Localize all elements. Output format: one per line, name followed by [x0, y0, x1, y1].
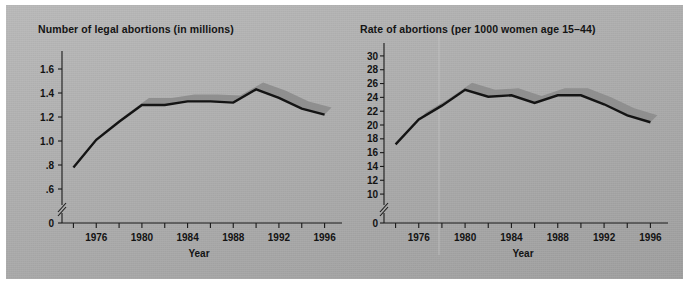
chart-canvas-left: 0.6.81.01.21.41.619761980198419881992199… [14, 5, 344, 279]
x-tick-label: 1988 [547, 232, 570, 243]
figure-panel: Number of legal abortions (in millions) … [6, 5, 683, 279]
y-tick-label: 30 [367, 51, 379, 62]
x-tick-label: 1996 [313, 232, 336, 243]
y-tick-label: 1.0 [40, 136, 54, 147]
x-tick-label: 1980 [131, 232, 154, 243]
x-tick-label: 1988 [222, 232, 245, 243]
y-tick-label: 28 [367, 64, 379, 75]
y-tick-label: 24 [367, 92, 379, 103]
x-axis-title: Year [188, 248, 209, 259]
x-tick-label: 1984 [500, 232, 523, 243]
y-tick-label: 0 [372, 218, 378, 229]
figure-root: Number of legal abortions (in millions) … [0, 0, 695, 287]
series-ribbon-top-surface [396, 83, 658, 145]
y-tick-label: 20 [367, 120, 379, 131]
x-axis-title: Year [512, 248, 533, 259]
y-tick-label: 18 [367, 133, 379, 144]
y-tick-label: 1.6 [40, 64, 54, 75]
y-tick-label: .6 [46, 184, 55, 195]
x-tick-label: 1976 [408, 232, 431, 243]
y-tick-label: 26 [367, 78, 379, 89]
chart-abortion-rate: Rate of abortions (per 1000 women age 15… [346, 5, 678, 279]
x-tick-label: 1996 [639, 232, 662, 243]
x-tick-label: 1992 [268, 232, 291, 243]
chart-legal-abortions-count: Number of legal abortions (in millions) … [14, 5, 344, 279]
x-tick-label: 1976 [85, 232, 108, 243]
y-tick-label: 1.4 [40, 88, 54, 99]
y-tick-label: 0 [48, 218, 54, 229]
y-tick-label: 1.2 [40, 112, 54, 123]
x-tick-label: 1980 [454, 232, 477, 243]
y-tick-label: 14 [367, 161, 379, 172]
chart-canvas-right: 0101214161820222426283019761980198419881… [346, 5, 678, 279]
y-tick-label: 12 [367, 175, 379, 186]
y-tick-label: 22 [367, 106, 379, 117]
x-tick-label: 1984 [176, 232, 199, 243]
x-tick-label: 1992 [593, 232, 616, 243]
series-line [73, 89, 324, 167]
y-tick-label: .8 [46, 160, 55, 171]
y-tick-label: 10 [367, 189, 379, 200]
y-tick-label: 16 [367, 147, 379, 158]
series-ribbon-top-surface [73, 82, 331, 167]
